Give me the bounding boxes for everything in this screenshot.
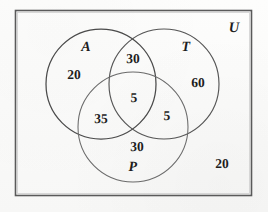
- region-count-t-and-p: 5: [164, 109, 171, 123]
- region-count-a-and-t: 30: [126, 52, 140, 66]
- set-label-p: P: [129, 161, 138, 175]
- region-count-a-and-p: 35: [94, 112, 108, 126]
- region-count-a-only: 20: [67, 68, 81, 82]
- region-count-p-only: 30: [130, 140, 144, 154]
- region-count-outside-all: 20: [215, 157, 229, 171]
- region-count-t-only: 60: [191, 76, 205, 90]
- region-count-a-and-t-and-p: 5: [131, 91, 138, 105]
- venn-diagram-figure: U A T P 20 60 30 30 35 5 5 20: [0, 0, 268, 212]
- set-label-a: A: [81, 41, 91, 55]
- universal-set-label: U: [229, 21, 239, 36]
- set-label-t: T: [182, 41, 191, 55]
